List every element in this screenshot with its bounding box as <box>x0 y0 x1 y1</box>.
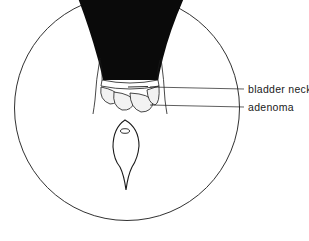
bladder-neck-label: bladder neck <box>248 83 309 95</box>
dark-lumen-region <box>78 0 184 80</box>
verumontanum-outline <box>113 120 139 190</box>
bladder-neck-highlight <box>128 87 148 88</box>
left-urethral-wall <box>93 58 100 114</box>
bladder-neck-band <box>101 80 159 89</box>
adenoma-leader <box>150 105 244 107</box>
adenoma-lobes <box>101 86 159 112</box>
adenoma-label: adenoma <box>248 101 294 113</box>
ejaculatory-orifice <box>121 129 130 134</box>
endoscopic-view-diagram: bladder neck adenoma <box>0 0 309 241</box>
